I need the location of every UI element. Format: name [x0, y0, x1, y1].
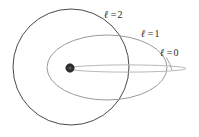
nucleus-highlight-icon [69, 67, 72, 70]
orbit-label-l2-value: 2 [118, 9, 123, 20]
orbit-canvas [0, 0, 199, 137]
orbit-label-l2-equals: = [110, 9, 118, 20]
orbit-path-l0 [68, 65, 186, 72]
orbit-label-l0-equals: = [166, 47, 174, 58]
orbit-label-l0-value: 0 [174, 47, 179, 58]
orbit-label-l2-symbol: ℓ [104, 9, 110, 20]
orbit-label-l1-value: 1 [155, 28, 160, 39]
orbit-path-l1 [47, 35, 167, 100]
orbital-diagram: ℓ=2 ℓ=1 ℓ=0 [0, 0, 199, 137]
orbit-label-l1: ℓ=1 [141, 29, 160, 40]
orbit-label-l0: ℓ=0 [160, 48, 179, 59]
orbit-label-l1-equals: = [147, 28, 155, 39]
orbit-label-l1-symbol: ℓ [141, 28, 147, 39]
orbit-label-l0-symbol: ℓ [160, 47, 166, 58]
orbit-label-l2: ℓ=2 [104, 10, 123, 21]
